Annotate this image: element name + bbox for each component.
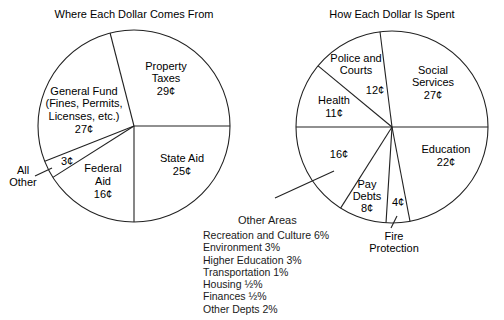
slice-label-health: Health: [318, 94, 350, 106]
slice-label-property-2: Taxes: [152, 72, 181, 84]
slice-label-property: Property: [145, 60, 187, 72]
slice-value-debts: 8¢: [361, 202, 373, 214]
slice-label-state: State Aid: [160, 152, 204, 164]
slice-label-federal-2: Aid: [95, 175, 111, 187]
slice-value-health: 11¢: [325, 107, 343, 119]
slice-value-social: 27¢: [424, 89, 442, 101]
legend-item: Environment 3%: [203, 241, 329, 253]
slice-label-debts: Pay: [358, 178, 377, 190]
other-areas-title: Other Areas: [238, 214, 297, 226]
left-pie: [35, 30, 230, 222]
slice-value-police: 12¢: [366, 84, 384, 96]
slice-label-police: Police and: [330, 52, 381, 64]
slice-label-general-3: Licenses, etc.): [49, 110, 120, 122]
slice-label-education: Education: [422, 143, 471, 155]
legend-item: Housing ½%: [203, 278, 329, 290]
slice-value-federal: 16¢: [94, 188, 112, 200]
legend-item: Higher Education 3%: [203, 254, 329, 266]
slice-label-general-2: (Fines, Permits,: [45, 97, 122, 109]
slice-value-education: 22¢: [437, 156, 455, 168]
left-pie-title: Where Each Dollar Comes From: [55, 8, 214, 20]
slice-value-general: 27¢: [75, 123, 93, 135]
slice-label-fire-2: Protection: [369, 242, 419, 254]
slice-label-fire: Fire: [385, 230, 404, 242]
slice-value-property: 29¢: [157, 85, 175, 97]
slice-label-federal: Federal: [84, 162, 121, 174]
slice-label-general: General Fund: [50, 85, 117, 97]
slice-label-social-2: Services: [412, 76, 455, 88]
legend-item: Transportation 1%: [203, 266, 329, 278]
slice-label-all-other: All: [17, 164, 29, 176]
right-pie-title: How Each Dollar Is Spent: [329, 8, 454, 20]
slice-label-social: Social: [418, 64, 448, 76]
slice-label-police-2: Courts: [340, 64, 373, 76]
slice-value-other-areas: 16¢: [330, 148, 348, 160]
other-areas-legend: Recreation and Culture 6% Environment 3%…: [203, 229, 329, 315]
slice-value-fire: 4¢: [392, 196, 404, 208]
legend-item: Finances ½%: [203, 290, 329, 302]
legend-item: Other Depts 2%: [203, 303, 329, 315]
slice-label-all-other-2: Other: [9, 176, 37, 188]
slice-value-state: 25¢: [173, 165, 191, 177]
slice-label-debts-2: Debts: [353, 190, 382, 202]
slice-value-all-other: 3¢: [61, 155, 73, 167]
legend-item: Recreation and Culture 6%: [203, 229, 329, 241]
